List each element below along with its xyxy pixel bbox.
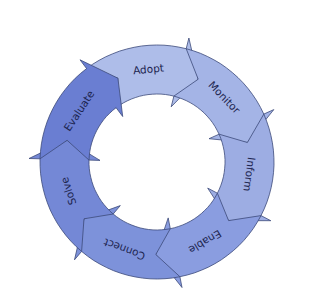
cycle-diagram: AdoptMonitorInformEnableConnectSolveEval… [0,0,312,307]
cycle-segments [29,38,274,288]
